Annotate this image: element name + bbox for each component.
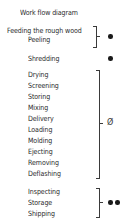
brace-tip-4 — [100, 202, 103, 203]
filled-dot-icon — [115, 200, 120, 205]
step-inspecting: Inspecting — [28, 187, 60, 196]
brace-tip-3 — [100, 123, 103, 124]
step-drying: Drying — [28, 70, 48, 79]
filled-dot-icon — [108, 34, 113, 39]
step-storing: Storing — [28, 92, 50, 101]
brace-tip-1 — [97, 36, 100, 37]
step-delivery: Delivery — [28, 114, 54, 123]
step-feeding: Feeding the rough wood — [7, 26, 82, 35]
diagram-title: Work flow diagram — [20, 8, 78, 17]
step-deflashing: Deflashing — [28, 169, 61, 178]
step-storage: Storage — [28, 198, 52, 207]
step-mixing: Mixing — [28, 103, 48, 112]
brace-group-3 — [96, 70, 100, 179]
step-ejecting: Ejecting — [28, 147, 53, 156]
step-screening: Screening — [28, 81, 59, 90]
step-molding: Molding — [28, 136, 52, 145]
step-peeling: Peeling — [28, 35, 50, 44]
step-shipping: Shipping — [28, 209, 55, 218]
step-loading: Loading — [28, 125, 52, 134]
step-removing: Removing — [28, 158, 59, 167]
filled-dot-icon — [108, 56, 113, 61]
filled-dot-icon — [108, 200, 113, 205]
empty-set-icon: Ø — [107, 119, 113, 127]
brace-group-4 — [96, 188, 100, 218]
step-shredding: Shredding — [28, 54, 59, 63]
brace-group-1 — [93, 26, 97, 48]
